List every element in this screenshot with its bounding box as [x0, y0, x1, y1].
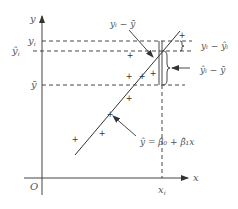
- regression-arrow: [113, 116, 136, 136]
- regression-equation: ŷ = β̂₀ + β̂₁x: [139, 137, 194, 147]
- yi-label: yi: [27, 35, 36, 47]
- svg-text:+: +: [150, 69, 157, 78]
- diagram-svg: + + + + + + + + + y x O yi ŷi ȳ xi yᵢ − …: [0, 0, 238, 209]
- svg-text:+: +: [126, 72, 133, 81]
- svg-text:+: +: [139, 72, 146, 81]
- y-axis-label: y: [29, 13, 36, 24]
- svg-text:+: +: [107, 110, 114, 119]
- svg-text:+: +: [127, 51, 134, 60]
- svg-text:+: +: [99, 129, 106, 138]
- ybar-label: ȳ: [30, 79, 37, 90]
- residual-label: yᵢ − ŷᵢ: [200, 41, 228, 51]
- explained-label: ŷᵢ − ȳ: [199, 65, 226, 75]
- xi-label: xi: [158, 184, 166, 196]
- data-points: + + + + + + + + +: [72, 31, 186, 144]
- svg-text:+: +: [126, 94, 133, 103]
- x-axis-label: x: [193, 172, 199, 183]
- origin-label: O: [30, 181, 38, 192]
- residual-brace: [180, 41, 184, 51]
- svg-text:+: +: [72, 135, 79, 144]
- svg-text:+: +: [179, 31, 186, 40]
- explained-brace: [163, 51, 170, 85]
- total-deviation-label: yᵢ − ȳ: [109, 19, 136, 29]
- regression-diagram: + + + + + + + + + y x O yi ŷi ȳ xi yᵢ − …: [0, 0, 238, 209]
- yhat-i-label: ŷi: [11, 45, 20, 57]
